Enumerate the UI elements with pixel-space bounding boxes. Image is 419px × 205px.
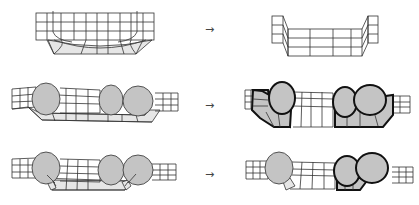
row2-left-mesh [12,83,178,122]
row3-right-mesh [246,152,413,190]
arrow-icon-row2: → [205,100,214,111]
arrow-icon-row3: → [205,169,214,180]
row2-right-mesh [245,82,410,127]
row1-right-mesh [272,16,378,56]
row3-left-mesh [12,152,176,190]
arrow-icon-row1: → [205,24,214,35]
row1-left-mesh [36,11,154,54]
